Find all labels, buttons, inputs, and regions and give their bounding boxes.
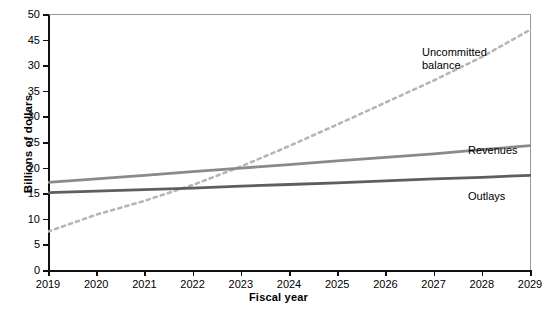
series-label-outlays: Outlays	[468, 190, 505, 203]
y-tick-label: 10	[28, 213, 40, 225]
x-tick-label: 2027	[421, 278, 445, 290]
x-tick-label: 2021	[132, 278, 156, 290]
x-tick-label: 2019	[36, 278, 60, 290]
y-tick-label: 35	[28, 85, 40, 97]
x-tick-label: 2020	[84, 278, 108, 290]
y-tick-label: 25	[28, 136, 40, 148]
x-tick-label: 2024	[277, 278, 301, 290]
y-tick-label: 30	[28, 110, 40, 122]
plot-area: 05101520253035304550 2019202020212022202…	[48, 14, 531, 272]
x-tick-label: 2022	[180, 278, 204, 290]
y-tick-label: 20	[28, 162, 40, 174]
y-tick-label: 5	[34, 238, 40, 250]
x-tick-label: 2025	[325, 278, 349, 290]
series-label-uncommitted-balance: Uncommitted balance	[422, 46, 487, 72]
y-tick-label: 45	[28, 34, 40, 46]
y-tick-label: 50	[28, 8, 40, 20]
x-tick-label: 2029	[518, 278, 542, 290]
series-label-revenues: Revenues	[468, 144, 518, 157]
x-tick-label: 2023	[229, 278, 253, 290]
x-tick-label: 2028	[470, 278, 494, 290]
y-tick-label: 15	[28, 187, 40, 199]
y-tick-label: 0	[34, 264, 40, 276]
y-tick-label: 30	[28, 59, 40, 71]
x-tick-label: 2026	[373, 278, 397, 290]
chart-figure: Billions of dollars Fiscal year 05101520…	[0, 0, 557, 312]
x-axis-title: Fiscal year	[0, 291, 557, 303]
